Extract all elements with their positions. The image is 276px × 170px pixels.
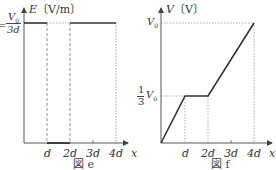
fig-f-ylabel-unit: 〔V〕 xyxy=(174,3,204,16)
fig-f-caption: 図 f xyxy=(211,155,230,170)
fig-f-ytick-v0: V0 xyxy=(147,17,158,29)
fig-f-ylabel-symbol: V xyxy=(166,3,174,16)
fig-e-xtick-d: d xyxy=(44,148,51,159)
fig-e-xlabel: x xyxy=(131,148,137,159)
fig-e-ylabel: E〔V/m〕 xyxy=(29,4,81,15)
figure-e-plot xyxy=(24,8,128,143)
fig-e-xtick-4d: 4d xyxy=(109,148,123,159)
fig-e-ytick-denominator: 3d xyxy=(7,25,20,35)
fig-f-ylabel: V〔V〕 xyxy=(166,4,204,15)
fig-e-ylabel-unit: 〔V/m〕 xyxy=(37,3,81,16)
fig-f-ytick-third-den: 3 xyxy=(138,97,144,107)
fig-f-xtick-d: d xyxy=(182,148,189,159)
fig-e-caption: 図 e xyxy=(73,155,94,170)
fig-f-xlabel: x xyxy=(269,148,275,159)
fig-f-ytick-third-v0: V0 xyxy=(146,90,157,102)
fig-f-ytick-third-sub: 0 xyxy=(153,95,157,102)
fig-f-ytick-third-num: 1 xyxy=(138,85,144,95)
fig-f-xtick-4d: 4d xyxy=(247,148,261,159)
fig-e-ylabel-symbol: E xyxy=(29,3,37,16)
fig-f-ytick-v0-sub: 0 xyxy=(154,22,158,29)
figure-f-plot xyxy=(161,8,272,143)
